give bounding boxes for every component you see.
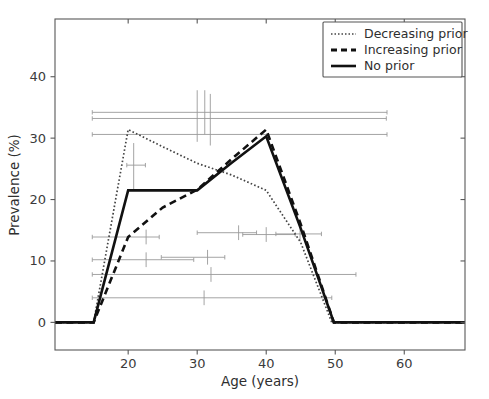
y-tick-label: 10 <box>29 253 46 268</box>
y-tick-label: 30 <box>29 131 46 146</box>
legend-label-no-prior: No prior <box>364 58 415 73</box>
y-axis-title: Prevalence (%) <box>6 134 22 236</box>
y-tick-label: 20 <box>29 192 46 207</box>
x-tick-label: 50 <box>327 356 344 371</box>
x-tick-label: 30 <box>189 356 206 371</box>
legend-label-decreasing-prior: Decreasing prior <box>364 26 468 41</box>
x-axis-title: Age (years) <box>221 373 299 389</box>
x-tick-label: 40 <box>258 356 275 371</box>
y-tick-label: 40 <box>29 69 46 84</box>
x-tick-label: 60 <box>396 356 413 371</box>
legend-label-increasing-prior: Increasing prior <box>364 42 463 57</box>
prevalence-line-chart: 2030405060 010203040 Age (years) Prevale… <box>0 0 489 399</box>
legend: Decreasing prior Increasing prior No pri… <box>323 22 468 77</box>
x-tick-label: 20 <box>120 356 137 371</box>
chart-figure: 2030405060 010203040 Age (years) Prevale… <box>0 0 489 399</box>
y-tick-label: 0 <box>38 315 46 330</box>
